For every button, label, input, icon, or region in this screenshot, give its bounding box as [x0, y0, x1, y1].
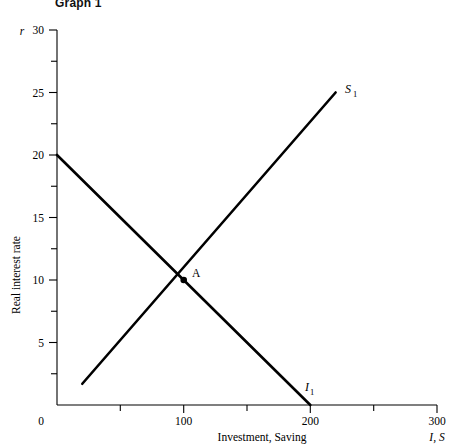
- saving-curve-label-subscript: 1: [353, 89, 357, 99]
- equilibrium-point-label: A: [192, 267, 201, 279]
- y-axis-tick-labels: 30 25 20 15 10 5 0: [33, 24, 45, 427]
- equilibrium-point-marker: [180, 277, 187, 284]
- x-tick-label-100: 100: [175, 415, 193, 427]
- y-tick-label-20: 20: [33, 149, 45, 161]
- x-axis-tick-labels: 100 200 300: [175, 415, 446, 427]
- x-axis-symbol: I, S: [428, 431, 445, 444]
- y-axis-title: Real interest rate: [10, 236, 22, 314]
- y-tick-label-10: 10: [33, 274, 45, 286]
- y-tick-label-15: 15: [33, 212, 45, 224]
- y-tick-label-25: 25: [33, 87, 45, 99]
- investment-curve-label: I 1: [304, 380, 314, 397]
- figure-container: Graph 1: [0, 0, 456, 444]
- saving-curve-label: S 1: [345, 82, 357, 99]
- y-tick-label-0: 0: [38, 415, 44, 427]
- x-axis-title: Investment, Saving: [218, 431, 307, 444]
- investment-curve-label-subscript: 1: [310, 387, 314, 397]
- saving-curve: [82, 93, 335, 384]
- x-axis-minor-ticks: [120, 405, 373, 411]
- y-tick-label-30: 30: [33, 24, 45, 36]
- y-tick-label-5: 5: [38, 337, 44, 349]
- saving-curve-label-text: S: [345, 82, 351, 96]
- x-tick-label-300: 300: [428, 415, 446, 427]
- chart-svg: 30 25 20 15 10 5 0 100 200 300 r Real in…: [0, 0, 456, 444]
- x-tick-label-200: 200: [302, 415, 320, 427]
- y-axis-symbol: r: [20, 25, 25, 37]
